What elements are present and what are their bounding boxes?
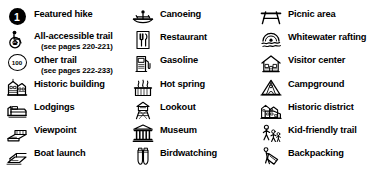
legend-entry-historic-building: Historic building [4, 76, 105, 97]
legend-entry-picnic-area: Picnic area [258, 6, 335, 27]
legend-entry-whitewater-rafting: Whitewater rafting [258, 29, 366, 50]
legend-entry-label: Historic building [34, 79, 105, 90]
legend-entry-label: Hot spring [160, 79, 205, 90]
legend-entry-viewpoint: Viewpoint [4, 122, 76, 143]
legend-entry-label: Museum [160, 125, 197, 136]
legend-entry-text: Lookout [156, 99, 196, 113]
legend-entry-text: Historic district [284, 99, 354, 113]
legend-entry-historic-district: Historic district [258, 99, 354, 120]
legend-entry-sublabel: (see pages 222-233) [34, 66, 113, 76]
featured-hike-number: 1 [9, 8, 26, 25]
legend-entry-kid-friendly-trail: Kid-friendly trail [258, 122, 357, 143]
campground-tent-icon [258, 76, 284, 97]
legend-entry-label: Other trail [34, 55, 113, 66]
legend-entry-text: Campground [284, 76, 344, 90]
legend-entry-text: Other trail(see pages 222-233) [30, 52, 113, 76]
legend-entry-label: Lookout [160, 102, 196, 113]
column-3: Picnic areaWhitewater raftingVisitor cen… [254, 0, 384, 174]
svg-text:A: A [13, 39, 18, 46]
legend-entry-label: Birdwatching [160, 148, 217, 159]
legend-entry-museum: Museum [130, 122, 197, 143]
backpacking-icon [258, 145, 284, 166]
column-1: 1Featured hikeAAll-accessible trail(see … [0, 0, 126, 174]
legend-entry-birdwatching: Birdwatching [130, 145, 217, 166]
legend-entry-text: Hot spring [156, 76, 205, 90]
viewpoint-icon [4, 122, 30, 143]
legend-entry-text: Lodgings [30, 99, 75, 113]
historic-building-icon [4, 76, 30, 97]
legend-entry-restaurant: Restaurant [130, 29, 207, 50]
picnic-area-icon [258, 6, 284, 27]
legend-entry-text: Kid-friendly trail [284, 122, 357, 136]
boat-launch-icon [4, 145, 30, 166]
legend-entry-label: Kid-friendly trail [288, 125, 357, 136]
legend-entry-lookout: Lookout [130, 99, 196, 120]
legend-entry-visitor-center: Visitor center [258, 52, 345, 73]
legend-entry-other-trail: 100Other trail(see pages 222-233) [4, 52, 113, 76]
gasoline-pump-icon [130, 52, 156, 73]
legend-entry-label: Viewpoint [34, 125, 76, 136]
museum-icon [130, 122, 156, 143]
legend-entry-backpacking: Backpacking [258, 145, 344, 166]
legend-entry-text: Backpacking [284, 145, 344, 159]
route-number: 100 [8, 54, 27, 71]
legend-entry-label: Picnic area [288, 9, 335, 20]
historic-district-icon [258, 99, 284, 120]
legend-entry-label: Visitor center [288, 55, 345, 66]
legend-entry-label: Campground [288, 79, 344, 90]
legend-entry-featured-hike: 1Featured hike [4, 6, 93, 27]
legend-entry-text: Canoeing [156, 6, 201, 20]
legend-entry-text: Picnic area [284, 6, 335, 20]
legend-entry-text: Restaurant [156, 29, 207, 43]
whitewater-rafting-icon [258, 29, 284, 50]
lodgings-bed-icon [4, 99, 30, 120]
legend-entry-label: Canoeing [160, 9, 201, 20]
legend-entry-label: Historic district [288, 102, 354, 113]
legend-entry-gasoline: Gasoline [130, 52, 198, 73]
visitor-center-icon [258, 52, 284, 73]
legend-entry-boat-launch: Boat launch [4, 145, 86, 166]
legend-entry-text: Gasoline [156, 52, 198, 66]
legend-entry-text: Featured hike [30, 6, 93, 20]
legend-entry-text: Boat launch [30, 145, 86, 159]
canoeing-icon [130, 6, 156, 27]
featured-hike-badge-icon: 1 [4, 6, 30, 27]
legend-entry-text: Visitor center [284, 52, 345, 66]
restaurant-icon [130, 29, 156, 50]
legend-entry-text: Viewpoint [30, 122, 76, 136]
birdwatching-binoculars-icon [130, 145, 156, 166]
legend-entry-label: Lodgings [34, 102, 75, 113]
lookout-tower-icon [130, 99, 156, 120]
legend-entry-hot-spring: Hot spring [130, 76, 205, 97]
legend-entry-text: Birdwatching [156, 145, 217, 159]
legend-entry-label: Boat launch [34, 148, 86, 159]
legend-entry-canoeing: Canoeing [130, 6, 201, 27]
kid-friendly-trail-icon [258, 122, 284, 143]
legend-entry-text: Museum [156, 122, 197, 136]
hot-spring-icon [130, 76, 156, 97]
legend-entry-label: Gasoline [160, 55, 198, 66]
legend-entry-label: Backpacking [288, 148, 344, 159]
wheelchair-accessible-icon: A [4, 28, 30, 49]
legend-entry-sublabel: (see pages 220-221) [34, 42, 113, 52]
legend-entry-text: Historic building [30, 76, 105, 90]
map-legend: 1Featured hikeAAll-accessible trail(see … [0, 0, 384, 174]
legend-entry-text: Whitewater rafting [284, 29, 366, 43]
legend-entry-all-accessible-trail: AAll-accessible trail(see pages 220-221) [4, 28, 113, 52]
legend-entry-text: All-accessible trail(see pages 220-221) [30, 28, 113, 52]
legend-entry-label: Restaurant [160, 32, 207, 43]
legend-entry-label: Featured hike [34, 9, 93, 20]
legend-entry-label: All-accessible trail [34, 31, 113, 42]
legend-entry-campground: Campground [258, 76, 344, 97]
route-shield-icon: 100 [4, 52, 30, 73]
column-2: CanoeingRestaurantGasolineHot springLook… [126, 0, 254, 174]
legend-entry-label: Whitewater rafting [288, 32, 366, 43]
legend-entry-lodgings: Lodgings [4, 99, 75, 120]
